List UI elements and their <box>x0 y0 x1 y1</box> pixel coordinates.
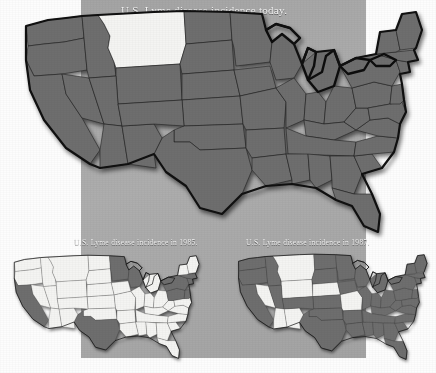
state-nd-1987 <box>314 254 337 270</box>
state-la-1987 <box>346 322 365 337</box>
state-mn-1987 <box>336 255 356 281</box>
state-ks-1985 <box>87 295 115 309</box>
state-al-1987 <box>373 322 384 338</box>
map-1987 <box>228 248 428 368</box>
state-ks-1987 <box>313 295 342 309</box>
state-mo-1985 <box>114 291 135 311</box>
states-today <box>26 11 422 232</box>
state-ar <box>246 128 286 158</box>
caption-1987: U.S. Lyme disease incidence in 1987. <box>246 238 370 247</box>
map-today-svg <box>4 8 424 240</box>
state-ny-1987 <box>388 275 417 291</box>
state-in <box>304 92 326 124</box>
state-wy-1987 <box>281 279 312 298</box>
state-nc-1987 <box>395 314 416 324</box>
state-co-1987 <box>282 297 313 309</box>
states-1985 <box>14 255 199 358</box>
state-ne <box>182 70 240 100</box>
state-mo-1987 <box>340 291 362 311</box>
state-wy-1985 <box>56 280 87 299</box>
state-al-1985 <box>146 322 157 338</box>
state-ar-1985 <box>117 310 136 324</box>
state-mo <box>240 88 286 130</box>
state-nc-1985 <box>167 314 188 323</box>
state-nm-1985 <box>59 308 78 329</box>
map-today <box>4 8 424 240</box>
lyme-disease-figure: U.S. Lyme disease incidence today. <box>0 0 436 373</box>
state-la-1985 <box>120 322 139 337</box>
caption-1985: U.S. Lyme disease incidence in 1985. <box>74 238 198 247</box>
state-nd <box>184 11 232 44</box>
state-sd <box>180 40 234 74</box>
map-1985 <box>4 248 200 368</box>
states-1987 <box>238 254 427 359</box>
state-co <box>118 100 184 126</box>
state-sd-1987 <box>312 268 338 284</box>
state-nm <box>122 124 162 168</box>
state-ne-1985 <box>87 283 114 297</box>
state-mn <box>230 12 272 66</box>
state-ar-1987 <box>343 310 362 324</box>
state-in-1985 <box>144 293 154 308</box>
state-al <box>308 154 332 188</box>
state-la <box>252 154 292 186</box>
state-co-1985 <box>57 297 88 309</box>
state-mn-1985 <box>109 256 129 281</box>
state-sd-1985 <box>86 269 111 285</box>
state-ny-1985 <box>161 275 189 291</box>
state-in-1987 <box>371 293 381 308</box>
map-1985-svg <box>4 248 200 368</box>
state-ne-1987 <box>313 282 341 296</box>
state-nd-1985 <box>88 255 110 270</box>
state-wy <box>116 64 182 104</box>
map-1987-svg <box>228 248 428 368</box>
state-nc <box>354 136 398 156</box>
state-nm-1987 <box>284 308 303 329</box>
state-ks <box>182 96 243 126</box>
